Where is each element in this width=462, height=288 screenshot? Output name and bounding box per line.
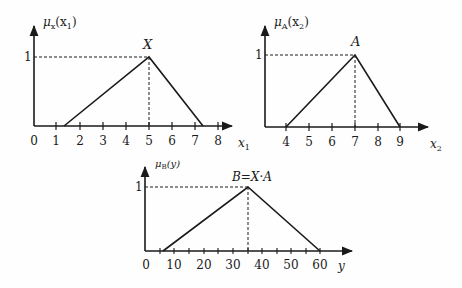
svg-text:2: 2: [76, 134, 84, 148]
svg-text:6: 6: [168, 134, 176, 148]
y-axis-label: μA(x2): [274, 15, 309, 31]
peak-label: B=X·A: [231, 170, 272, 184]
svg-text:9: 9: [396, 135, 404, 149]
svg-text:1: 1: [52, 134, 60, 148]
svg-text:20: 20: [196, 258, 211, 272]
chart-x-membership: μx(x1) 1 X 0 1 2 3 4 5 6 7 8 x1: [24, 15, 250, 152]
x-tick-labels: 0 10 20 30 40 50 60: [142, 258, 327, 272]
svg-text:8: 8: [214, 134, 222, 148]
x-axis-label: x1: [238, 136, 250, 152]
membership-triangle: [286, 55, 400, 127]
membership-triangle: [163, 187, 320, 251]
y-tick-1: 1: [255, 48, 263, 62]
svg-text:5: 5: [305, 135, 313, 149]
svg-text:50: 50: [283, 258, 298, 272]
y-tick-1: 1: [135, 180, 143, 194]
svg-text:4: 4: [282, 135, 290, 149]
x-axis-label: x2: [430, 137, 442, 153]
y-axis-label: μx(x1): [43, 15, 77, 31]
peak-label: A: [350, 34, 360, 49]
svg-text:4: 4: [122, 134, 130, 148]
svg-text:10: 10: [166, 258, 181, 272]
svg-text:0: 0: [142, 258, 150, 272]
x-axis-label: y: [337, 259, 345, 273]
y-axis-label: μB(y): [155, 158, 180, 171]
svg-text:8: 8: [374, 135, 382, 149]
svg-text:3: 3: [99, 134, 107, 148]
membership-triangle: [64, 57, 203, 126]
y-tick-1: 1: [24, 50, 32, 64]
svg-text:40: 40: [254, 258, 269, 272]
svg-text:60: 60: [312, 258, 327, 272]
svg-text:0: 0: [30, 134, 38, 148]
svg-text:7: 7: [351, 135, 359, 149]
svg-text:30: 30: [225, 258, 240, 272]
peak-label: X: [142, 37, 153, 52]
svg-text:7: 7: [191, 134, 199, 148]
figure-svg: μx(x1) 1 X 0 1 2 3 4 5 6 7 8 x1 μA(x2) 1…: [0, 0, 462, 288]
chart-b-membership: μB(y) 1 B=X·A 0 10 20 30 40 50 60 y: [135, 158, 352, 273]
x-tick-labels: 0 1 2 3 4 5 6 7 8: [30, 134, 222, 148]
chart-a-membership: μA(x2) 1 A 4 5 6 7 8 9 x2: [255, 15, 442, 153]
svg-text:6: 6: [328, 135, 336, 149]
x-tick-labels: 4 5 6 7 8 9: [282, 135, 404, 149]
svg-text:5: 5: [145, 134, 153, 148]
fuzzy-membership-figure: μx(x1) 1 X 0 1 2 3 4 5 6 7 8 x1 μA(x2) 1…: [0, 0, 462, 288]
